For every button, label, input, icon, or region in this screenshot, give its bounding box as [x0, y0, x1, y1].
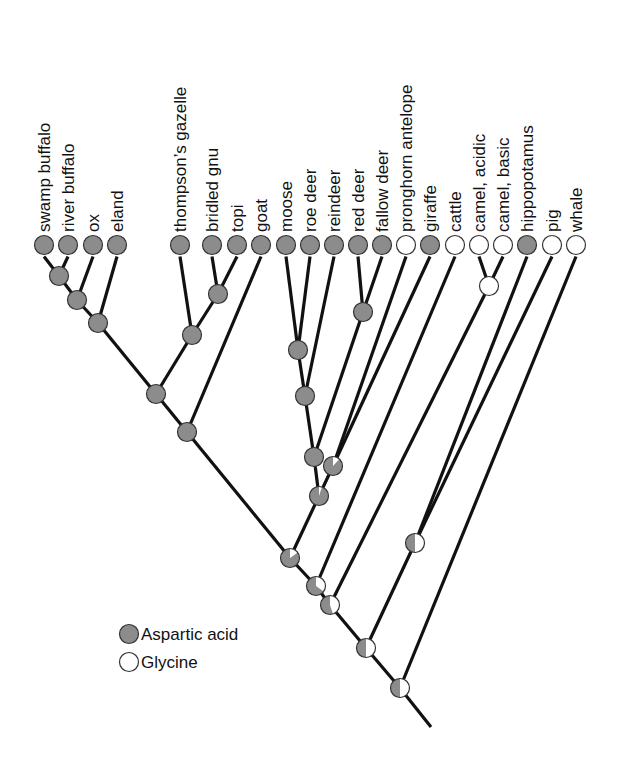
tip-label: hippopotamus — [518, 125, 537, 232]
node-n_cervus-icon — [354, 303, 373, 322]
legend-label-aspartic-acid: Aspartic acid — [141, 625, 238, 644]
node-n_moose_roe-icon — [289, 341, 308, 360]
branch-n_cervoidea — [290, 496, 319, 558]
tip-thompsons_gazelle: thompson’s gazelle — [171, 87, 191, 255]
branch-cattle — [316, 257, 455, 587]
branch-eland — [98, 257, 117, 324]
tip-pig-state-icon — [543, 236, 562, 255]
tip-goat-state-icon — [252, 236, 271, 255]
branch-reindeer — [305, 257, 334, 397]
tip-giraffe-state-icon — [421, 236, 440, 255]
branch-n_cervus — [314, 312, 363, 457]
tip-label: cattle — [446, 191, 465, 232]
tip-label: pronghorn antelope — [397, 85, 416, 232]
tip-label: ox — [84, 214, 103, 232]
tip-roe_deer-state-icon — [301, 236, 320, 255]
branch-pronghorn_antelope — [333, 257, 406, 467]
node-n_cattle-icon — [307, 577, 326, 596]
aspartic-acid-swatch-icon — [120, 625, 139, 644]
tip-swamp_buffalo: swamp buffalo — [35, 123, 55, 255]
tip-thompsons_gazelle-state-icon — [171, 236, 190, 255]
branch-thompsons_gazelle — [180, 257, 192, 336]
tip-roe_deer: roe deer — [301, 168, 321, 254]
node-n_suina-icon — [357, 639, 376, 658]
tip-goat: goat — [252, 199, 272, 255]
node-n_prong_giraffe-icon — [324, 457, 343, 476]
tip-label: bridled gnu — [203, 148, 222, 232]
branch-roe_deer — [298, 257, 310, 351]
tip-label: river buffalo — [59, 143, 78, 232]
tip-cattle: cattle — [446, 191, 466, 254]
legend-label-glycine: Glycine — [141, 653, 198, 672]
node-n_bovidae-icon — [178, 423, 197, 442]
tip-label: moose — [277, 181, 296, 232]
node-n_camel-icon — [480, 277, 499, 296]
tip-label: pig — [543, 209, 562, 232]
tip-hippopotamus: hippopotamus — [518, 125, 538, 254]
tip-pig: pig — [543, 209, 563, 254]
tip-label: reindeer — [325, 169, 344, 232]
branch-n_hippo_pig — [366, 543, 415, 648]
tip-whale-state-icon — [567, 236, 586, 255]
node-n_bovidae_a-icon — [147, 385, 166, 404]
tip-red_deer: red deer — [349, 168, 369, 254]
tip-giraffe: giraffe — [421, 185, 441, 254]
tip-river_buffalo-state-icon — [59, 236, 78, 255]
node-n_antelopini-icon — [183, 326, 202, 345]
tip-label: eland — [108, 190, 127, 232]
tip-label: goat — [252, 199, 271, 232]
tip-red_deer-state-icon — [349, 236, 368, 255]
node-n_ruminant_camel-icon — [321, 596, 340, 615]
tree-tips: swamp buffaloriver buffalooxelandthompso… — [35, 85, 587, 255]
tip-river_buffalo: river buffalo — [59, 143, 79, 254]
node-n_cervidae-icon — [305, 448, 324, 467]
tip-eland: eland — [108, 190, 128, 254]
tip-label: giraffe — [421, 185, 440, 232]
tip-ox: ox — [84, 214, 104, 255]
tip-hippopotamus-state-icon — [518, 236, 537, 255]
node-n_pecora-icon — [281, 549, 300, 568]
branch-n_eland — [98, 323, 156, 394]
tip-eland-state-icon — [108, 236, 127, 255]
node-n_root-icon — [391, 679, 410, 698]
legend-item-aspartic-acid: Aspartic acid — [120, 625, 239, 645]
tip-label: thompson’s gazelle — [171, 87, 190, 232]
tip-label: topi — [228, 205, 247, 232]
tip-fallow_deer-state-icon — [373, 236, 392, 255]
tip-cattle-state-icon — [446, 236, 465, 255]
legend: Aspartic acid Glycine — [120, 625, 239, 673]
glycine-swatch-icon — [120, 653, 139, 672]
tip-label: camel, basic — [494, 137, 513, 232]
tip-reindeer-state-icon — [325, 236, 344, 255]
branch-n_bovidae — [187, 432, 290, 558]
tip-fallow_deer: fallow deer — [373, 149, 393, 254]
tip-moose-state-icon — [277, 236, 296, 255]
branch-moose — [286, 257, 298, 351]
branch-n_antelopini — [156, 335, 192, 394]
tip-topi: topi — [228, 205, 248, 255]
tip-camel_basic: camel, basic — [494, 137, 514, 254]
node-n_hippo_pig-icon — [406, 534, 425, 553]
tip-moose: moose — [277, 181, 297, 255]
node-n_cervoidea-icon — [310, 487, 329, 506]
tip-bridled_gnu-state-icon — [203, 236, 222, 255]
tip-camel_basic-state-icon — [494, 236, 513, 255]
tip-camel_acidic: camel, acidic — [470, 133, 490, 254]
node-n_ox-icon — [68, 291, 87, 310]
tip-ox-state-icon — [84, 236, 103, 255]
node-n_eland-icon — [89, 314, 108, 333]
legend-item-glycine: Glycine — [120, 653, 198, 673]
tip-label: whale — [567, 188, 586, 233]
tip-label: swamp buffalo — [35, 123, 54, 232]
tip-bridled_gnu: bridled gnu — [203, 148, 223, 255]
tip-pronghorn_antelope-state-icon — [397, 236, 416, 255]
tip-label: fallow deer — [373, 149, 392, 232]
tip-reindeer: reindeer — [325, 169, 345, 254]
node-n_reindeer-icon — [296, 387, 315, 406]
tree-nodes — [50, 267, 499, 698]
tip-label: red deer — [349, 168, 368, 232]
node-n_buffalo-icon — [50, 267, 69, 286]
tip-camel_acidic-state-icon — [470, 236, 489, 255]
tip-swamp_buffalo-state-icon — [35, 236, 54, 255]
tip-topi-state-icon — [228, 236, 247, 255]
